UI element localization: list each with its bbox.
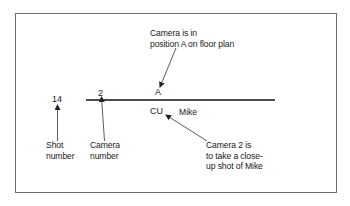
shot-label-line2: number [46,151,75,162]
shot-description-line2: to take a close- [206,151,263,162]
shot-description-line3: up shot of Mike [206,161,263,172]
camera-label-line2: number [90,151,120,162]
subject-name: Mike [179,107,197,117]
camera-position: A [155,87,161,97]
camera-label-line1: Camera [90,140,120,151]
position-annotation-line1: Camera is in [150,28,234,39]
shot-label-line1: Shot [46,140,75,151]
camera-number-arrow [102,97,105,141]
shot-number: 14 [52,94,62,104]
position-arrow [160,48,176,87]
shot-description: Camera 2 is to take a close- up shot of … [206,140,263,172]
close-up-arrow [166,115,207,141]
camera-number-label: Camera number [90,140,120,161]
shot-type: CU [150,106,163,116]
shot-description-line1: Camera 2 is [206,140,263,151]
shot-number-label: Shot number [46,140,75,161]
position-annotation-line2: position A on floor plan [150,39,234,50]
camera-number: 2 [98,88,103,98]
position-annotation: Camera is in position A on floor plan [150,28,234,49]
